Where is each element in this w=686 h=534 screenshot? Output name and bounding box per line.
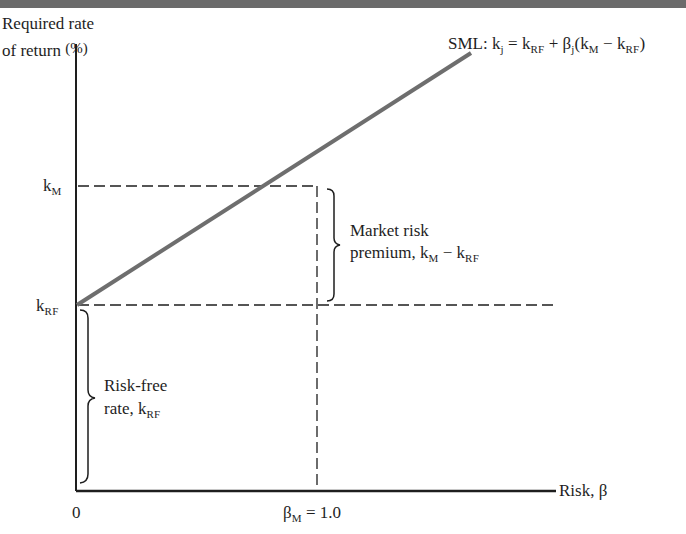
risk-free-rate-label-line2: rate, kRF [104, 399, 161, 424]
risk-free-brace [80, 310, 95, 483]
sml-diagram [0, 0, 686, 534]
y-axis-unit: (%) [65, 40, 88, 56]
beta-m-tick-label: βM = 1.0 [283, 503, 341, 528]
market-risk-premium-label: Market risk [350, 221, 429, 241]
x-axis-title: Risk, β [559, 481, 607, 501]
origin-tick-label: 0 [72, 503, 81, 523]
km-tick-label: kM [43, 176, 62, 201]
market-risk-premium-label-line2: premium, kM − kRF [350, 243, 479, 268]
market-risk-brace [327, 189, 340, 301]
y-axis-title-line2: of return (%) [2, 38, 88, 61]
krf-tick-label: kRF [36, 296, 59, 321]
risk-free-rate-label: Risk-free [104, 376, 167, 396]
y-axis-title: Required rate [2, 14, 94, 34]
sml-equation: SML: kj = kRF + βj(kM − kRF) [448, 34, 645, 59]
